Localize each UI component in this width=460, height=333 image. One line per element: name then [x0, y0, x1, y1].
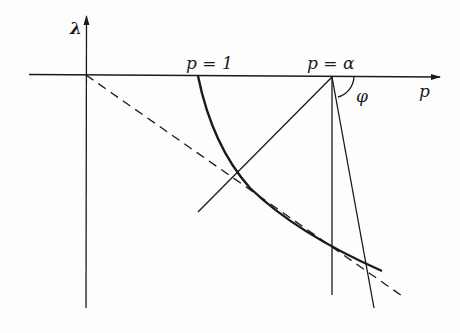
diagram-canvas: λ p p = 1 p = α φ [0, 0, 460, 333]
dashed-asymptote-line [86, 75, 405, 298]
angle-arc-phi [338, 77, 354, 97]
p-axis [29, 75, 440, 78]
line-alpha-to-lower-left [198, 77, 332, 212]
p-equals-1-label: p = 1 [186, 55, 233, 72]
lambda-axis-label: λ [70, 20, 82, 37]
p-equals-alpha-label: p = α [307, 55, 354, 72]
p-axis-label: p [419, 83, 430, 100]
lambda-axis [86, 16, 87, 308]
bold-curve [198, 76, 382, 271]
slanted-line-from-alpha [332, 77, 374, 308]
diagram-svg [0, 0, 460, 333]
angle-phi-label: φ [356, 88, 368, 105]
